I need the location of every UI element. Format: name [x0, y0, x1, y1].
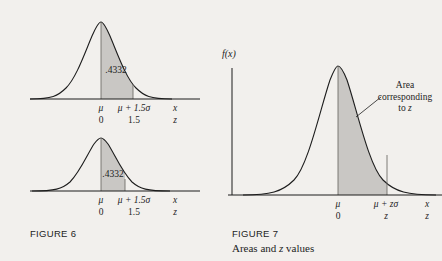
z-tick-value-top: 1.5 [128, 116, 140, 126]
caption-z-symbol: z [279, 242, 283, 254]
x-axis-name-bottom: x [173, 196, 177, 206]
x-tick-mu-plus-top: μ + 1.5σ [118, 104, 151, 114]
annotation-line-1: Area [396, 80, 414, 90]
z-axis-name-fig7: z [425, 212, 429, 222]
z-axis-name-top: z [173, 116, 177, 126]
z-tick-zero-fig7: 0 [336, 212, 341, 222]
figure-7-caption: FIGURE 7 [232, 229, 278, 239]
x-tick-mu-top: μ [99, 104, 104, 114]
x-axis-name-top: x [173, 104, 177, 114]
z-tick-zero-bottom: 0 [99, 208, 104, 218]
annotation-line-3: to z [398, 103, 411, 113]
x-tick-mu-plus-bottom: μ + 1.5σ [118, 196, 151, 206]
figure-6-caption: FIGURE 6 [30, 229, 76, 239]
figure-6-top-chart [30, 22, 200, 99]
z-tick-zero-top: 0 [99, 116, 104, 126]
x-tick-mu-bottom: μ [99, 196, 104, 206]
figure-6-bottom-chart [30, 138, 200, 191]
y-axis-label-fig7: f(x) [222, 49, 236, 59]
figure-7-caption-subtitle: Areas and z values [232, 243, 314, 254]
x-axis-name-fig7: x [425, 200, 429, 210]
z-axis-name-bottom: z [173, 208, 177, 218]
annotation-area-corresponding: Area corresponding to z [369, 80, 441, 115]
area-value-bottom: .4332 [102, 170, 123, 180]
figures-vector-layer [0, 0, 442, 261]
figure-page: .4332 μ μ + 1.5σ x 0 1.5 z .4332 μ μ + 1… [0, 0, 442, 261]
area-value-top: .4332 [105, 66, 126, 76]
z-tick-value-fig7: z [384, 212, 388, 222]
z-tick-value-bottom: 1.5 [128, 208, 140, 218]
annotation-z-symbol: z [408, 103, 412, 113]
annotation-line-2: corresponding [378, 92, 432, 102]
x-tick-mu-plus-fig7: μ + zσ [374, 200, 398, 210]
x-tick-mu-fig7: μ [336, 200, 341, 210]
